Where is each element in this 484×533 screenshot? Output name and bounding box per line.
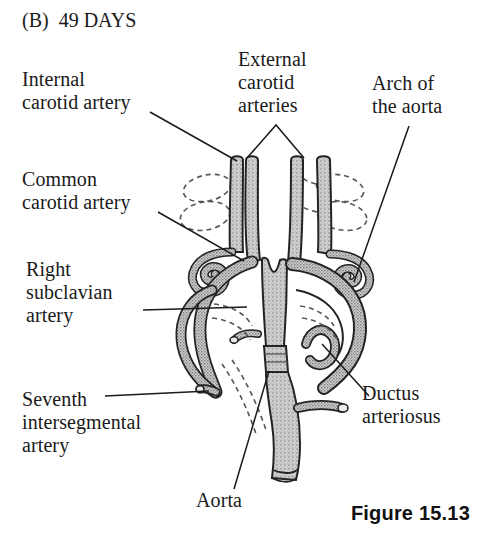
- arch-of-aorta-leader: [354, 126, 409, 282]
- label-right-subclavian-artery: Right subclavian artery: [26, 258, 113, 327]
- label-common-carotid-artery: Common carotid artery: [22, 168, 131, 214]
- regressed-arches-right: [301, 170, 369, 234]
- label-arch-of-the-aorta: Arch of the aorta: [372, 72, 442, 118]
- label-aorta: Aorta: [196, 489, 242, 512]
- figure-caption: Figure 15.13: [351, 502, 470, 525]
- external-carotid-artery-left: [245, 156, 260, 262]
- internal-carotid-artery-right: [317, 156, 331, 254]
- label-internal-carotid-artery: Internal carotid artery: [22, 68, 131, 114]
- pulmonary-artery-stubs: [230, 333, 258, 343]
- external-carotid-leader: [247, 125, 304, 158]
- central-trunk: [262, 258, 288, 372]
- label-ductus-arteriosus: Ductus arteriosus: [362, 382, 441, 428]
- internal-carotid-leader: [150, 112, 237, 161]
- vessel-group: [178, 156, 370, 482]
- label-external-carotid-arteries: External carotid arteries: [238, 48, 307, 117]
- label-seventh-intersegmental-artery: Seventh intersegmental artery: [22, 388, 141, 457]
- internal-carotid-artery: [230, 156, 243, 252]
- right-subclavian-branch: [298, 404, 348, 412]
- external-carotid-artery-right: [288, 156, 303, 264]
- ductus-arteriosus: [306, 330, 335, 365]
- figure-panel: (B) 49 DAYS: [0, 0, 484, 533]
- aorta: [266, 372, 300, 482]
- aorta-leader: [234, 371, 269, 489]
